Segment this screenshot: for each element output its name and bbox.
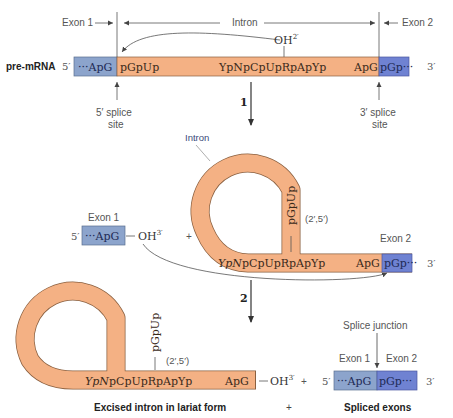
excised-lariat: [25, 291, 255, 380]
three-prime-end-bottom: 3′: [426, 376, 435, 387]
five-prime-end-mid: 5′: [71, 231, 80, 242]
exon1-sequence-mid: ···ApG: [85, 230, 119, 243]
intron-end-sequence-mid: ApG: [355, 257, 380, 270]
branch-sequence-bottom: YpNpCpUpRpApYp: [85, 375, 192, 388]
intron-label-leader: [196, 145, 210, 161]
branch-sequence: YpNpCpUpRpApYp: [218, 257, 325, 270]
oh3-label-bottom: OH3′: [270, 374, 295, 388]
step1-label: 1: [240, 96, 248, 109]
intron-end-sequence-bottom: ApG: [224, 375, 249, 388]
caption-spliced-exons: Spliced exons: [344, 402, 412, 413]
step2-label: 2: [240, 292, 248, 305]
plus-sign-mid: +: [186, 231, 192, 242]
branch-site-sequence: YpNpCpUpRpApYp: [218, 61, 326, 74]
five-prime-end: 5′: [62, 61, 71, 72]
exon2-label: Exon 2: [402, 17, 434, 28]
five-prime-end-bottom: 5′: [322, 376, 331, 387]
step-2: 2: [240, 280, 251, 322]
five-splice-site-label-2: site: [108, 119, 124, 130]
products-section: pGpUp (2′,5′) YpNpCpUpRpApYp ApG OH3′ + …: [25, 291, 435, 413]
pre-mrna-section: Exon 1 Intron Exon 2 OH2′ pre-mRNA 5′ ··…: [6, 12, 436, 130]
loop-sequence: pGpUp: [285, 186, 298, 225]
lariat-intermediate-section: Intron pGpUp (2′,5′) YpNpCpUpRpApYp ApG …: [71, 132, 436, 280]
linkage-label: (2′,5′): [305, 213, 328, 224]
intron-start-sequence: pGpUp: [120, 61, 159, 74]
caption-excised-intron: Excised intron in lariat form: [94, 402, 226, 413]
exon1-label-mid: Exon 1: [88, 212, 120, 223]
exon1-label-bottom: Exon 1: [339, 353, 371, 364]
splice-junction-label: Splice junction: [343, 320, 407, 331]
exon1-label: Exon 1: [62, 17, 94, 28]
step-1: 1: [240, 82, 251, 125]
five-splice-site-label-1: 5′ splice: [96, 107, 132, 118]
excised-lariat-outline: [25, 291, 256, 380]
nucleophilic-attack-arrow: [122, 33, 280, 52]
intron-end-sequence: ApG: [353, 61, 378, 74]
exon2-label-bottom: Exon 2: [386, 353, 418, 364]
exon1-sequence: ···ApG: [78, 61, 112, 74]
exon2-label-mid: Exon 2: [380, 233, 412, 244]
three-prime-end: 3′: [427, 61, 436, 72]
exon1-sequence-bottom: ···ApG: [337, 375, 371, 388]
caption-plus: +: [286, 402, 292, 413]
exon2-sequence-mid: pGp···: [384, 257, 417, 270]
three-prime-end-mid: 3′: [427, 258, 436, 269]
loop-sequence-bottom: pGpUp: [149, 313, 162, 352]
three-splice-site-label-2: site: [372, 119, 388, 130]
exon2-sequence: pGp···: [380, 61, 413, 74]
three-splice-site-label-1: 3′ splice: [360, 107, 396, 118]
splicing-diagram: Exon 1 Intron Exon 2 OH2′ pre-mRNA 5′ ··…: [0, 0, 453, 418]
oh3-label-mid: OH3′: [138, 229, 163, 243]
plus-sign-bottom: +: [301, 376, 307, 387]
intron-label: Intron: [232, 17, 258, 28]
exon2-sequence-bottom: pGp···: [379, 375, 412, 388]
pre-mrna-label: pre-mRNA: [6, 61, 55, 72]
linkage-label-bottom: (2′,5′): [166, 355, 189, 366]
oh2-label: OH2′: [274, 33, 299, 47]
intron-lariat-label: Intron: [185, 132, 209, 143]
